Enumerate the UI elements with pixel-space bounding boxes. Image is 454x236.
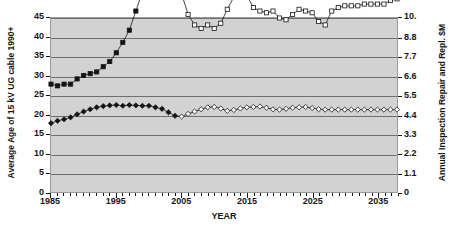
x-axis-tick-mark [208,193,209,196]
x-axis-tick-mark [214,193,215,196]
x-axis-tick-label: 2025 [293,197,333,206]
hollow-square-marker [356,4,360,8]
x-axis-tick-mark [50,193,51,198]
hollow-square-marker [277,16,281,20]
hollow-diamond-marker [257,104,262,109]
y-axis-right-tick-mark [398,17,402,18]
y-axis-right-title: Annual Inspection Repair and Repl. $M [438,23,447,183]
filled-square-marker [49,82,53,86]
hollow-diamond-marker [329,107,334,112]
hollow-diamond-marker [362,107,367,112]
filled-diamond-marker [120,103,125,108]
hollow-square-marker [336,5,340,9]
x-axis-tick-mark [142,193,143,196]
hollow-diamond-marker [368,107,373,112]
hollow-square-marker [317,19,321,23]
x-axis-tick-mark [398,193,399,196]
plot-area [50,17,398,193]
hollow-diamond-marker [355,107,360,112]
hollow-square-marker [186,12,190,16]
hollow-diamond-marker [199,107,204,112]
x-axis-tick-mark [240,193,241,196]
hollow-diamond-marker [179,114,184,119]
x-axis-tick-mark [345,193,346,196]
filled-diamond-marker [68,115,73,120]
x-axis-tick-mark [70,193,71,196]
hollow-square-marker [290,12,294,16]
hollow-diamond-marker [244,105,249,110]
filled-diamond-marker [153,105,158,110]
y-axis-right-tick-label: 1.1 [404,169,430,178]
filled-square-marker [88,72,92,76]
hollow-diamond-marker [212,104,217,109]
x-axis-tick-mark [76,193,77,196]
x-axis-tick-mark [300,193,301,196]
hollow-diamond-marker [231,107,236,112]
x-axis-tick-mark [194,193,195,196]
x-axis-tick-mark [254,193,255,196]
y-axis-right-tick-label: 10. [404,12,430,21]
x-axis-tick-mark [148,193,149,196]
y-axis-right-tick-mark [398,154,402,155]
y-axis-left-tick-label: 25 [22,90,44,99]
hollow-square-marker [343,4,347,8]
hollow-square-marker [382,2,386,6]
filled-square-marker [95,70,99,74]
hollow-square-marker [225,7,229,11]
x-axis-tick-mark [89,193,90,196]
x-axis-tick-mark [63,193,64,196]
x-axis-tick-mark [135,193,136,196]
x-axis-tick-mark [103,193,104,196]
y-axis-right-tick-mark [398,135,402,136]
filled-diamond-marker [81,109,86,114]
filled-diamond-marker [61,117,66,122]
hollow-square-marker [349,4,353,8]
hollow-diamond-marker [277,107,282,112]
x-axis-tick-mark [188,193,189,196]
hollow-square-marker [330,9,334,13]
hollow-square-marker [284,18,288,22]
y-axis-left-tick-label: 5 [22,168,44,177]
y-axis-left-title: Average Age of 15 kV UG cable 1990+ [7,23,16,183]
hollow-diamond-marker [310,106,315,111]
filled-square-marker [55,84,59,88]
y-axis-right-tick-mark [398,38,402,39]
filled-square-marker [62,82,66,86]
hollow-diamond-marker [336,107,341,112]
x-axis-tick-mark [365,193,366,196]
hollow-diamond-marker [316,107,321,112]
hollow-square-marker [388,0,392,3]
hollow-diamond-marker [388,107,393,112]
x-axis-tick-mark [260,193,261,196]
hollow-square-marker [258,9,262,13]
x-axis-tick-label: 2015 [227,197,267,206]
x-axis-tick-mark [57,193,58,196]
x-axis-tick-mark [267,193,268,196]
x-axis-tick-mark [352,193,353,196]
y-axis-right-tick-label: 4.4 [404,111,430,120]
y-axis-left-tick-label: 10 [22,149,44,158]
y-axis-left-tick-label: 40 [22,32,44,41]
hollow-diamond-marker [394,107,399,112]
x-axis-tick-mark [83,193,84,196]
filled-diamond-marker [172,113,177,118]
filled-diamond-marker [107,103,112,108]
y-axis-right-tick-mark [398,174,402,175]
filled-square-marker [82,73,86,77]
filled-diamond-marker [101,104,106,109]
x-axis-tick-mark [313,193,314,198]
y-axis-left-tick-label: 15 [22,129,44,138]
x-axis-tick-mark [116,193,117,198]
hollow-square-marker [297,7,301,11]
hollow-square-marker [375,2,379,6]
hollow-diamond-marker [303,104,308,109]
hollow-square-marker [193,23,197,27]
x-axis-tick-mark [201,193,202,196]
filled-diamond-marker [127,102,132,107]
y-axis-right-tick-mark [398,57,402,58]
y-axis-right-tick-mark [398,96,402,97]
x-axis-tick-mark [385,193,386,196]
hollow-square-marker [362,2,366,6]
x-axis-tick-mark [286,193,287,196]
hollow-square-marker [310,11,314,15]
